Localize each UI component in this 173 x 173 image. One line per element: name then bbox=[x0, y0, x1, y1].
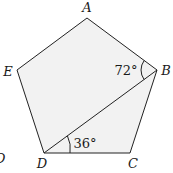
angle-label-72: 72° bbox=[114, 63, 137, 78]
vertex-label-e: E bbox=[2, 64, 13, 79]
vertex-label-a: A bbox=[81, 0, 91, 15]
angle-label-36: 36° bbox=[73, 136, 96, 151]
stray-glyph: D bbox=[0, 151, 6, 166]
vertex-label-c: C bbox=[128, 156, 138, 171]
vertex-label-d: D bbox=[36, 156, 48, 171]
pentagon-diagram: A B C D E 72° 36° D bbox=[0, 0, 173, 173]
vertex-label-b: B bbox=[160, 63, 171, 78]
